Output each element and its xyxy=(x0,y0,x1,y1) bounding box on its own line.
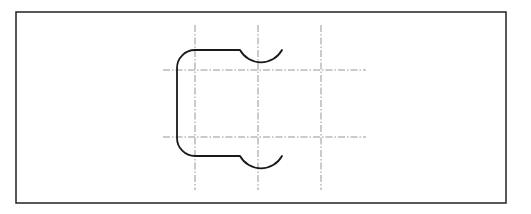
technical-drawing-canvas xyxy=(0,0,531,214)
background xyxy=(0,0,531,214)
